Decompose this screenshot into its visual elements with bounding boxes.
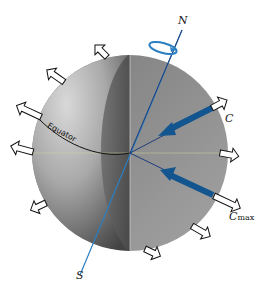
south-label: S [76, 270, 84, 281]
sphere [30, 55, 235, 251]
north-label: N [178, 15, 188, 26]
rotation-ellipse-icon [148, 40, 178, 57]
c-label: C [225, 113, 233, 124]
sphere-diagram [0, 0, 261, 289]
cmax-subscript: max [237, 213, 254, 222]
cmax-label: Cmax [229, 211, 254, 222]
